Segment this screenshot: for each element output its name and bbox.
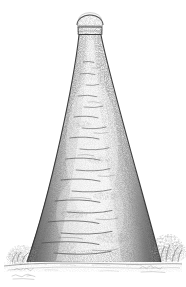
- artwork-frame: Bottle Kiln: [0, 0, 186, 287]
- cap-collar: [78, 27, 102, 35]
- bottle-kiln-illustration: [0, 0, 186, 287]
